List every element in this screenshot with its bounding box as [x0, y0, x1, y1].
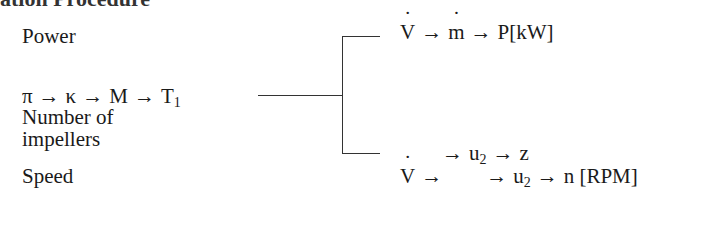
power-result: P[kW]	[498, 20, 554, 44]
mass-flow-symbol: m	[448, 22, 464, 43]
power-chain: V→m→P[kW]	[400, 22, 554, 43]
impellers-label-line2: impellers	[22, 128, 114, 150]
arrow-icon: →	[421, 164, 442, 188]
volume-flow-symbol: V	[400, 166, 415, 187]
arrow-icon: →	[486, 164, 507, 188]
arrow-icon: →	[421, 20, 442, 44]
speed-chain: V→→u2→n [RPM]	[400, 166, 638, 190]
arrow-icon: →	[493, 141, 514, 165]
tip-speed-symbol: u	[513, 164, 524, 188]
arrow-icon: →	[442, 141, 463, 165]
arrow-icon: →	[471, 20, 492, 44]
temperature-symbol: T	[161, 84, 174, 108]
section-heading-fragment: ation Procedure	[0, 0, 150, 12]
power-label: Power	[22, 26, 76, 47]
arrow-icon: →	[134, 84, 155, 108]
impellers-result: z	[520, 141, 529, 165]
tip-speed-subscript: 2	[524, 175, 531, 190]
impellers-label: Number of impellers	[22, 106, 114, 150]
bracket-vertical	[342, 36, 343, 154]
volume-flow-symbol: V	[400, 22, 415, 43]
bracket-top-arm	[342, 36, 380, 37]
temperature-subscript: 1	[174, 95, 181, 110]
arrow-icon: →	[537, 164, 558, 188]
connector-horizontal	[258, 95, 342, 96]
bracket-bottom-arm	[342, 153, 380, 154]
speed-label: Speed	[22, 166, 73, 187]
speed-result: n [RPM]	[564, 164, 638, 188]
tip-speed-symbol: u	[469, 141, 480, 165]
impellers-label-line1: Number of	[22, 106, 114, 128]
